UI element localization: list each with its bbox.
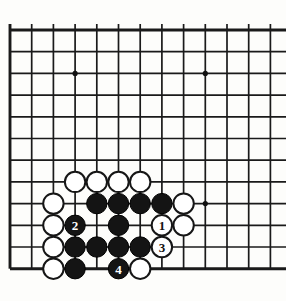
stone-white[interactable] (43, 259, 63, 279)
stone-black[interactable] (108, 237, 128, 257)
stone-white[interactable] (108, 172, 128, 192)
stone-move-number: 4 (115, 262, 122, 277)
stone-move-number: 1 (159, 218, 166, 233)
stone-body (65, 237, 85, 257)
go-board-canvas[interactable]: 2134 (0, 0, 286, 301)
stone-body (130, 237, 150, 257)
stone-black[interactable] (87, 237, 107, 257)
stone-black-move-4[interactable]: 4 (108, 259, 128, 279)
stone-black[interactable] (87, 193, 107, 213)
stone-white[interactable] (173, 215, 193, 235)
star-point-icon-hoshi-top-right (203, 71, 208, 76)
stone-white[interactable] (173, 193, 193, 213)
stone-body (43, 215, 63, 235)
stone-black[interactable] (65, 237, 85, 257)
stone-body (173, 193, 193, 213)
stone-white[interactable] (43, 237, 63, 257)
stone-move-number: 2 (72, 218, 79, 233)
stone-white[interactable] (43, 193, 63, 213)
stone-body (108, 215, 128, 235)
stone-black[interactable] (152, 193, 172, 213)
stone-body (130, 193, 150, 213)
stone-black-move-2[interactable]: 2 (65, 215, 85, 235)
stone-white-move-3[interactable]: 3 (152, 237, 172, 257)
stone-body (87, 193, 107, 213)
stone-white-move-1[interactable]: 1 (152, 215, 172, 235)
star-point-icon-hoshi-lower-right (203, 201, 208, 206)
stone-white[interactable] (130, 259, 150, 279)
board-stones[interactable]: 2134 (43, 172, 194, 279)
stone-body (108, 237, 128, 257)
go-board-diagram: 2134 (0, 0, 286, 301)
stone-white[interactable] (43, 215, 63, 235)
stone-body (130, 259, 150, 279)
stone-body (43, 259, 63, 279)
stone-body (43, 237, 63, 257)
stone-body (152, 193, 172, 213)
stone-white[interactable] (130, 172, 150, 192)
stone-body (43, 193, 63, 213)
stone-black[interactable] (108, 215, 128, 235)
stone-black[interactable] (130, 193, 150, 213)
stone-white[interactable] (87, 172, 107, 192)
stone-black[interactable] (108, 193, 128, 213)
stone-body (108, 172, 128, 192)
star-point-icon-hoshi-top-left (73, 71, 78, 76)
stone-white[interactable] (65, 172, 85, 192)
stone-black[interactable] (65, 259, 85, 279)
stone-body (173, 215, 193, 235)
stone-body (65, 172, 85, 192)
stone-body (65, 259, 85, 279)
stone-black[interactable] (130, 237, 150, 257)
stone-body (87, 237, 107, 257)
stone-move-number: 3 (159, 240, 166, 255)
stone-body (108, 193, 128, 213)
stone-body (130, 172, 150, 192)
stone-body (87, 172, 107, 192)
